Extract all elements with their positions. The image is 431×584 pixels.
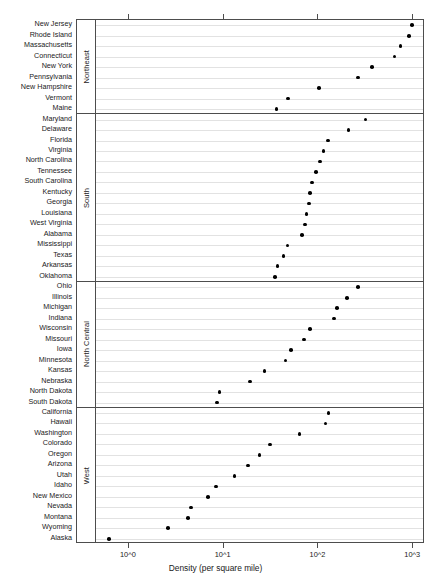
panel-plot-area xyxy=(95,114,423,281)
x-tick-mark-bottom xyxy=(317,543,318,548)
strip-text: West xyxy=(82,467,91,484)
y-axis-label: Hawaii xyxy=(50,418,72,426)
x-tick-label: 10^2 xyxy=(310,550,326,559)
data-point xyxy=(298,432,302,436)
data-point xyxy=(332,317,336,321)
gridline xyxy=(96,507,423,508)
gridline xyxy=(96,25,423,26)
y-axis-label: Delaware xyxy=(42,125,72,133)
gridline xyxy=(96,256,423,257)
gridline xyxy=(96,36,423,37)
y-axis-label: South Dakota xyxy=(28,398,72,406)
x-tick-mark-top xyxy=(317,14,318,19)
data-point xyxy=(276,264,280,268)
gridline xyxy=(96,266,423,267)
region-panel: West xyxy=(77,408,423,543)
y-axis-label: Mississippi xyxy=(37,240,72,248)
gridline xyxy=(96,423,423,424)
y-axis-label: Nevada xyxy=(47,502,72,510)
gridline xyxy=(96,88,423,89)
gridline xyxy=(96,329,423,330)
gridline xyxy=(96,298,423,299)
y-axis-label: North Carolina xyxy=(26,156,72,164)
x-tick-mark-top xyxy=(412,14,413,19)
y-axis-label: Indiana xyxy=(48,314,72,322)
gridline xyxy=(96,78,423,79)
data-point xyxy=(189,506,193,510)
gridline xyxy=(96,245,423,246)
y-axis-label: Georgia xyxy=(46,198,72,206)
data-point xyxy=(248,380,252,384)
data-point xyxy=(166,526,170,530)
x-tick-mark-top xyxy=(223,14,224,19)
data-point xyxy=(317,86,321,90)
gridline xyxy=(96,172,423,173)
y-axis-label: Arizona xyxy=(48,460,72,468)
panel-strip-label: South xyxy=(77,114,95,281)
y-axis-label: New Jersey xyxy=(34,20,72,28)
data-point xyxy=(305,212,309,216)
gridline xyxy=(96,161,423,162)
gridline xyxy=(96,182,423,183)
data-point xyxy=(318,160,322,164)
gridline xyxy=(96,235,423,236)
y-axis-label: Idaho xyxy=(54,481,72,489)
y-axis-label: Texas xyxy=(53,251,72,259)
gridline xyxy=(96,308,423,309)
data-point xyxy=(345,296,349,300)
gridline xyxy=(96,99,423,100)
panel-strip-label: Northeast xyxy=(77,20,95,113)
x-tick-mark-bottom xyxy=(412,543,413,548)
y-axis-label: Kansas xyxy=(48,366,72,374)
data-point xyxy=(300,233,304,237)
panel-plot-area xyxy=(95,20,423,113)
y-axis-label: South Carolina xyxy=(24,177,72,185)
data-point xyxy=(284,359,288,363)
data-point xyxy=(107,537,111,541)
y-axis-label: Rhode Island xyxy=(30,31,72,39)
data-point xyxy=(273,275,277,279)
data-point xyxy=(314,170,318,174)
gridline xyxy=(96,476,423,477)
gridline xyxy=(96,141,423,142)
data-point xyxy=(246,464,250,468)
x-tick-mark-bottom xyxy=(223,543,224,548)
gridline xyxy=(96,287,423,288)
strip-text: South xyxy=(82,188,91,208)
y-axis-label: Montana xyxy=(44,513,72,521)
panel-plot-area xyxy=(95,408,423,543)
panel-plot-area xyxy=(95,282,423,407)
gridline xyxy=(96,539,423,540)
data-point xyxy=(186,516,190,520)
y-axis-label: Louisiana xyxy=(41,209,72,217)
x-tick-mark-bottom xyxy=(128,543,129,548)
y-axis-label: Tennessee xyxy=(37,167,72,175)
y-axis-label: Vermont xyxy=(45,94,72,102)
y-axis-label: California xyxy=(42,408,72,416)
data-point xyxy=(268,443,272,447)
data-point xyxy=(308,327,312,331)
y-axis-label: Maine xyxy=(52,104,72,112)
data-point xyxy=(302,338,306,342)
strip-text: North Central xyxy=(82,321,91,367)
y-axis-label: Ohio xyxy=(57,282,72,290)
data-point xyxy=(307,202,311,206)
gridline xyxy=(96,120,423,121)
data-point xyxy=(214,485,218,489)
gridline xyxy=(96,528,423,529)
y-axis-label: Washington xyxy=(34,429,72,437)
y-axis-label: Michigan xyxy=(43,303,72,311)
gridline xyxy=(96,277,423,278)
plot-frame: NortheastSouthNorth CentralWest xyxy=(76,19,424,543)
data-point xyxy=(303,223,307,227)
y-axis-label: Oklahoma xyxy=(39,272,72,280)
data-point xyxy=(410,23,414,27)
gridline xyxy=(96,46,423,47)
gridline xyxy=(96,130,423,131)
panel-strip-label: North Central xyxy=(77,282,95,407)
y-axis-label: Maryland xyxy=(42,115,72,123)
data-point xyxy=(286,244,290,248)
strip-text: Northeast xyxy=(82,50,91,83)
data-point xyxy=(370,65,374,69)
data-point xyxy=(356,76,360,80)
